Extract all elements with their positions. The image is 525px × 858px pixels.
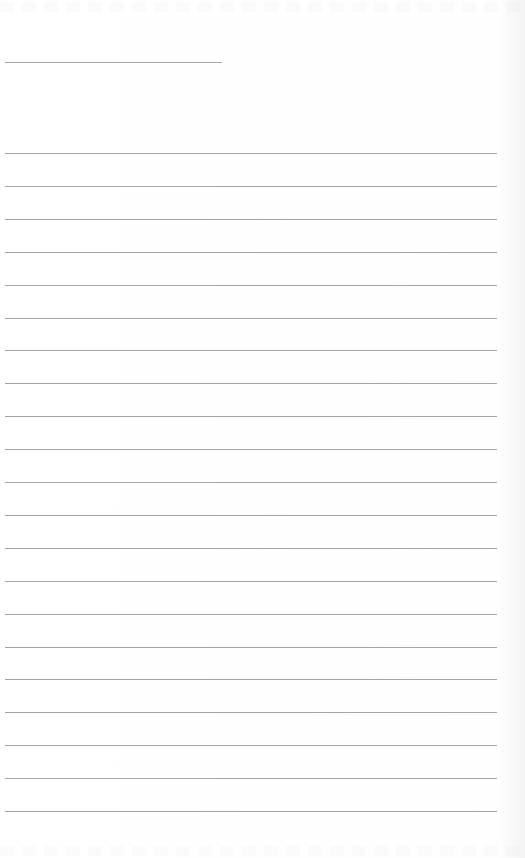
ruled-line bbox=[5, 482, 497, 483]
ruled-line bbox=[5, 614, 497, 615]
ruled-line bbox=[5, 778, 497, 779]
ruled-line bbox=[5, 252, 497, 253]
ruled-line bbox=[5, 811, 497, 812]
ruled-line bbox=[5, 679, 497, 680]
lined-paper-page bbox=[0, 0, 525, 858]
ruled-line bbox=[5, 285, 497, 286]
bleed-through-text-bottom bbox=[0, 846, 525, 856]
ruled-line bbox=[5, 383, 497, 384]
ruled-lines bbox=[0, 0, 525, 858]
ruled-line bbox=[5, 647, 497, 648]
ruled-line bbox=[5, 416, 497, 417]
ruled-line bbox=[5, 219, 497, 220]
ruled-line bbox=[5, 548, 497, 549]
ruled-line bbox=[5, 515, 497, 516]
ruled-line bbox=[5, 449, 497, 450]
ruled-line bbox=[5, 350, 497, 351]
ruled-line bbox=[5, 318, 497, 319]
ruled-line bbox=[5, 581, 497, 582]
ruled-line bbox=[5, 186, 497, 187]
ruled-line bbox=[5, 745, 497, 746]
ruled-line bbox=[5, 153, 497, 154]
ruled-line bbox=[5, 712, 497, 713]
